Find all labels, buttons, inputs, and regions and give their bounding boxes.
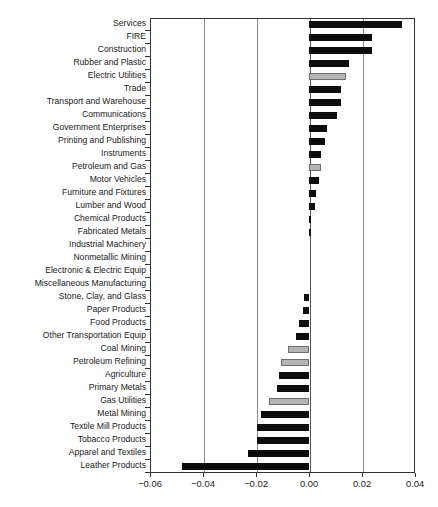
category-label: Transport and Warehouse — [0, 95, 146, 108]
bar-petroleum-and-gas — [309, 164, 321, 171]
bar-petroleum-refining — [281, 359, 309, 366]
bar-electric-utilities — [309, 73, 346, 80]
bar-instruments — [309, 151, 321, 158]
category-label: Tobacco Products — [0, 433, 146, 446]
category-label: Construction — [0, 43, 146, 56]
category-label: Nonmetallic Mining — [0, 251, 146, 264]
bar-apparel-and-textiles — [248, 450, 309, 457]
bar-rubber-and-plastic — [309, 60, 349, 67]
bar-food-products — [299, 320, 309, 327]
bar-paper-products — [303, 307, 309, 314]
bar-coal-mining — [288, 346, 309, 353]
category-label: Paper Products — [0, 303, 146, 316]
category-label: Metal Mining — [0, 407, 146, 420]
category-label: Trade — [0, 82, 146, 95]
x-tick-label: 0.00 — [289, 478, 329, 489]
category-label: Government Enterprises — [0, 121, 146, 134]
bar-tobacco-products — [257, 437, 309, 444]
category-label: Leather Products — [0, 459, 146, 472]
category-label: Miscellaneous Manufacturing — [0, 277, 146, 290]
category-label: Services — [0, 17, 146, 30]
x-tick — [362, 473, 363, 477]
bar-textile-mill-products — [257, 424, 309, 431]
category-label: Gas Utilities — [0, 394, 146, 407]
category-label: Coal Mining — [0, 342, 146, 355]
category-label: Textile Mill Products — [0, 420, 146, 433]
category-label: Petroleum Refining — [0, 355, 146, 368]
bar-chemical-products — [309, 216, 311, 223]
bar-agriculture — [279, 372, 309, 379]
category-label: Other Transportation Equip — [0, 329, 146, 342]
category-label: Primary Metals — [0, 381, 146, 394]
chart-row: Leather Products — [0, 460, 438, 473]
category-label: Furniture and Fixtures — [0, 186, 146, 199]
bar-chart-figure: ServicesFIREConstructionRubber and Plast… — [0, 0, 438, 507]
category-label: Food Products — [0, 316, 146, 329]
category-label: FIRE — [0, 30, 146, 43]
bar-lumber-and-wood — [309, 203, 315, 210]
category-rows: ServicesFIREConstructionRubber and Plast… — [0, 18, 438, 473]
bar-metal-mining — [261, 411, 309, 418]
category-label: Printing and Publishing — [0, 134, 146, 147]
bar-stone-clay-and-glass — [304, 294, 309, 301]
category-label: Apparel and Textiles — [0, 446, 146, 459]
category-label: Petroleum and Gas — [0, 160, 146, 173]
bar-motor-vehicles — [309, 177, 319, 184]
category-label: Chemical Products — [0, 212, 146, 225]
bar-other-transportation-equip — [296, 333, 309, 340]
bar-construction — [309, 47, 372, 54]
bar-transport-and-warehouse — [309, 99, 341, 106]
x-tick — [150, 473, 151, 477]
bar-fabricated-metals — [309, 229, 311, 236]
x-tick-label: −0.02 — [236, 478, 276, 489]
category-label: Industrial Machinery — [0, 238, 146, 251]
category-label: Agriculture — [0, 368, 146, 381]
category-label: Instruments — [0, 147, 146, 160]
x-tick — [415, 473, 416, 477]
bar-government-enterprises — [309, 125, 327, 132]
bar-printing-and-publishing — [309, 138, 325, 145]
bar-gas-utilities — [269, 398, 309, 405]
bar-leather-products — [182, 463, 309, 470]
category-label: Electronic & Electric Equip — [0, 264, 146, 277]
bar-primary-metals — [277, 385, 309, 392]
x-tick — [256, 473, 257, 477]
x-axis: −0.06−0.04−0.020.000.020.04 — [150, 473, 415, 503]
category-label: Motor Vehicles — [0, 173, 146, 186]
x-tick-label: −0.04 — [183, 478, 223, 489]
category-label: Fabricated Metals — [0, 225, 146, 238]
x-tick — [309, 473, 310, 477]
x-tick — [203, 473, 204, 477]
x-tick-label: 0.02 — [342, 478, 382, 489]
category-label: Communications — [0, 108, 146, 121]
x-tick-label: −0.06 — [130, 478, 170, 489]
bar-fire — [309, 34, 372, 41]
x-tick-label: 0.04 — [395, 478, 435, 489]
category-label: Stone, Clay, and Glass — [0, 290, 146, 303]
bar-furniture-and-fixtures — [309, 190, 316, 197]
bar-services — [309, 21, 402, 28]
category-label: Electric Utilities — [0, 69, 146, 82]
bar-communications — [309, 112, 337, 119]
category-label: Lumber and Wood — [0, 199, 146, 212]
bar-trade — [309, 86, 341, 93]
category-label: Rubber and Plastic — [0, 56, 146, 69]
